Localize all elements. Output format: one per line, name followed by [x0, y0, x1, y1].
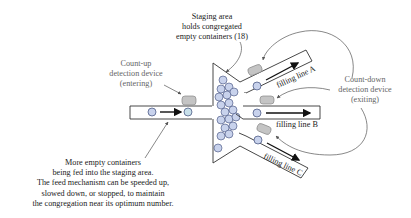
entry-conveyor — [130, 96, 212, 119]
count-down-sensor-b-icon — [260, 96, 274, 104]
count-down-callout-arrow-b — [277, 88, 330, 98]
feed-note-label: More empty containers being fed into the… — [18, 158, 188, 209]
staging-callout-arrow — [226, 42, 241, 72]
filling-line-b-label: filling line B — [276, 120, 318, 129]
count-down-label: Count-down detection device (exiting) — [330, 75, 400, 106]
count-up-sensor-icon — [182, 96, 196, 105]
staging-area-label: Staging area holds congregated empty con… — [162, 12, 262, 43]
feed-callout-arrow — [145, 122, 168, 158]
count-down-sensor-a-icon — [247, 64, 263, 77]
count-down-sensor-c-icon — [256, 123, 272, 136]
count-down-callout-arrow-c — [276, 108, 367, 155]
filling-line-a-label: filling line A — [275, 64, 317, 90]
staging-area — [213, 63, 240, 163]
diagram-canvas: filling line A filling line B filling li… — [0, 0, 411, 218]
filling-line-b — [236, 96, 320, 119]
count-up-label: Count-up detection device (entering) — [104, 59, 168, 90]
